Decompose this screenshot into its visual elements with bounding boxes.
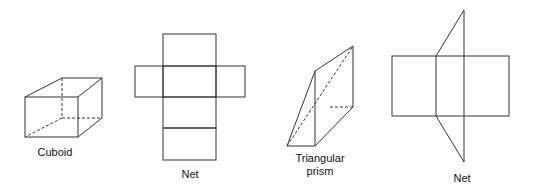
prism-net-label: Net — [442, 172, 482, 185]
diagram-canvas — [0, 0, 534, 195]
cuboid-figure — [25, 78, 102, 137]
triangular-prism-figure — [287, 46, 353, 146]
cuboid-label: Cuboid — [30, 146, 80, 159]
cuboid-net-figure — [135, 34, 245, 160]
cuboid-net-label: Net — [170, 168, 210, 181]
prism-label-line2: prism — [285, 165, 355, 178]
prism-label-line1: Triangular — [285, 152, 355, 165]
prism-net-figure — [392, 10, 509, 162]
